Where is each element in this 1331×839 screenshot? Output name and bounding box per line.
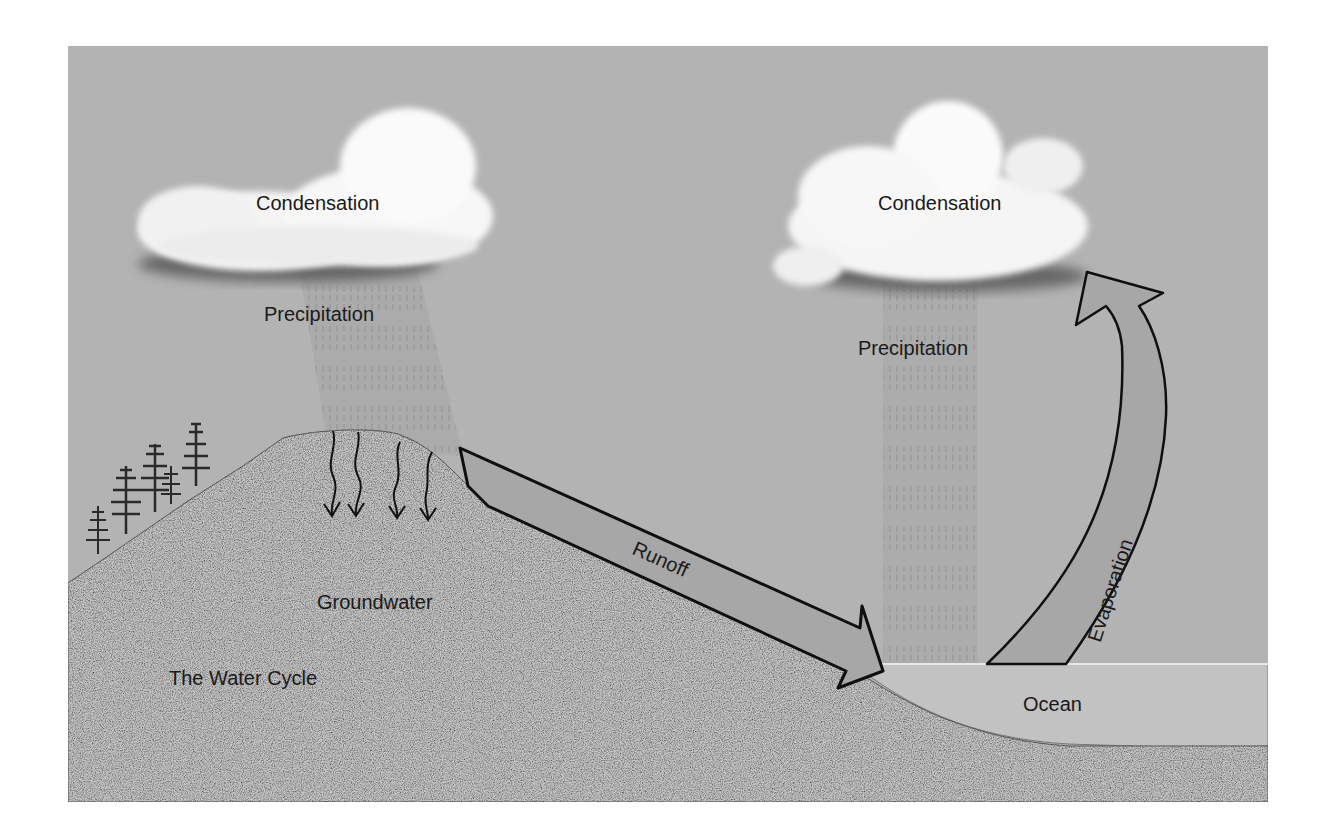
- left-precipitation-label: Precipitation: [264, 304, 374, 324]
- ocean-label: Ocean: [1023, 694, 1082, 714]
- diagram-caption: The Water Cycle: [169, 668, 317, 688]
- groundwater-label: Groundwater: [317, 592, 433, 612]
- left-condensation-label: Condensation: [256, 193, 379, 213]
- right-precipitation-label: Precipitation: [858, 338, 968, 358]
- right-condensation-label: Condensation: [878, 193, 1001, 213]
- water-cycle-diagram: Condensation Precipitation Groundwater R…: [68, 46, 1268, 802]
- right-rain-streaks: [883, 271, 978, 666]
